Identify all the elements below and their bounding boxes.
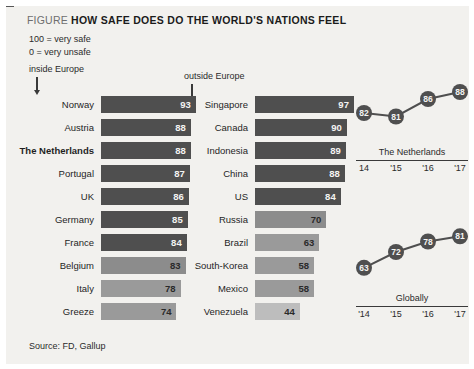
- bar-row: Portugal87: [101, 165, 203, 182]
- bar: 63: [255, 234, 319, 251]
- bar-value: 84: [171, 234, 182, 251]
- bar-label: China: [223, 165, 255, 182]
- axis-tick-label: '17: [446, 163, 474, 173]
- bar-row: Italy78: [101, 280, 203, 297]
- bar-row: Austria88: [101, 119, 203, 136]
- bar-label: UK: [81, 188, 101, 205]
- bar: 87: [101, 165, 190, 182]
- bar-label: Brazil: [224, 234, 255, 251]
- bar: 58: [255, 257, 314, 274]
- bar: 86: [101, 188, 189, 205]
- group-label-inside-europe: inside Europe: [29, 64, 84, 74]
- bar-value: 84: [325, 188, 336, 205]
- arrow-down-icon-inside: [34, 77, 40, 95]
- data-point-value: 63: [359, 263, 369, 273]
- bar: 88: [101, 119, 191, 136]
- line-chart-globally: 63727881Globally'14'15'16'17: [356, 224, 468, 320]
- bar-label: US: [235, 188, 255, 205]
- line-chart-caption: The Netherlands: [356, 147, 468, 157]
- axis-tick-label: '14: [350, 309, 378, 319]
- axis-tick-label: '17: [446, 309, 474, 319]
- bar-row: South-Korea58: [255, 257, 357, 274]
- figure-kicker: FIGURE: [27, 14, 68, 26]
- bar: 44: [255, 303, 300, 320]
- bar-label: Canada: [215, 119, 255, 136]
- bar: 90: [255, 119, 347, 136]
- bar-row: France84: [101, 234, 203, 251]
- data-point-value: 86: [423, 94, 433, 104]
- bar: 78: [101, 280, 181, 297]
- bar-row: US84: [255, 188, 357, 205]
- bar-label: Venezuela: [204, 303, 255, 320]
- axis-tick-label: 14: [350, 163, 378, 173]
- data-point-value: 82: [359, 108, 369, 118]
- bar-label: Indonesia: [207, 142, 255, 159]
- line-series: 82818688: [356, 78, 468, 134]
- bar-row: Venezuela44: [255, 303, 357, 320]
- bar-label: Norway: [62, 96, 101, 113]
- bar-label: Greeze: [63, 303, 101, 320]
- bar-value: 70: [311, 211, 322, 228]
- bar-label: The Netherlands: [20, 142, 101, 159]
- bar-value: 90: [331, 119, 342, 136]
- bar-label: Portugal: [59, 165, 101, 182]
- bar-label: Russia: [219, 211, 255, 228]
- bar-label: France: [64, 234, 101, 251]
- bar-value: 86: [173, 188, 184, 205]
- bar: 84: [255, 188, 341, 205]
- bar: 58: [255, 280, 314, 297]
- bar-value: 85: [172, 211, 183, 228]
- bar-label: Belgium: [60, 257, 101, 274]
- line-path: [364, 236, 460, 267]
- bar: 83: [101, 257, 186, 274]
- bar: 89: [255, 142, 346, 159]
- bar-value: 88: [175, 142, 186, 159]
- bar-label: Mexico: [218, 280, 255, 297]
- bar-value: 78: [165, 280, 176, 297]
- bar-label: Singapore: [205, 96, 255, 113]
- bar-row: Belgium83: [101, 257, 203, 274]
- axis-tick-label: '15: [382, 163, 410, 173]
- bar-value: 63: [304, 234, 315, 251]
- bar-value: 58: [299, 257, 310, 274]
- bar-value: 44: [284, 303, 295, 320]
- bar-row: China88: [255, 165, 357, 182]
- axis-tick-label: '16: [414, 309, 442, 319]
- axis-tick-label: '16: [414, 163, 442, 173]
- bar-value: 74: [161, 303, 172, 320]
- bar: 84: [101, 234, 187, 251]
- bar-row: The Netherlands88: [101, 142, 203, 159]
- bar-row: Norway93: [101, 96, 203, 113]
- line-chart-caption: Globally: [356, 293, 468, 303]
- source-note: Source: FD, Gallup: [29, 341, 106, 351]
- bar-value: 58: [299, 280, 310, 297]
- line-chart-axis: [356, 306, 468, 307]
- bar-value: 89: [330, 142, 341, 159]
- legend-line-safe: 100 = very safe: [29, 33, 91, 46]
- infographic-figure: FIGURE HOW SAFE DOES DO THE WORLD'S NATI…: [0, 0, 474, 369]
- group-label-outside-europe: outside Europe: [184, 71, 245, 81]
- bar-label: Germany: [55, 211, 101, 228]
- scale-legend: 100 = very safe 0 = very unsafe: [29, 33, 91, 58]
- data-point-value: 72: [391, 247, 401, 257]
- data-point-value: 81: [455, 231, 465, 241]
- bar-value: 88: [329, 165, 340, 182]
- bar: 88: [255, 165, 345, 182]
- frame-edge-top: [0, 0, 474, 6]
- line-series: 63727881: [356, 224, 468, 280]
- bar: 85: [101, 211, 188, 228]
- bar: 97: [255, 96, 354, 113]
- bar-row: Greeze74: [101, 303, 203, 320]
- bar-row: Germany85: [101, 211, 203, 228]
- bar-value: 97: [338, 96, 349, 113]
- bar-row: Indonesia89: [255, 142, 357, 159]
- bar: 70: [255, 211, 326, 228]
- bar-value: 88: [175, 119, 186, 136]
- bar-row: Russia70: [255, 211, 357, 228]
- frame-edge-bottom: [0, 364, 474, 369]
- bar-label: Austria: [64, 119, 101, 136]
- bar-value: 83: [170, 257, 181, 274]
- data-point-value: 88: [455, 87, 465, 97]
- line-chart-netherlands: 82818688The Netherlands14'15'16'17: [356, 78, 468, 174]
- bar-chart-outside-europe: Singapore97Canada90Indonesia89China88US8…: [255, 96, 357, 326]
